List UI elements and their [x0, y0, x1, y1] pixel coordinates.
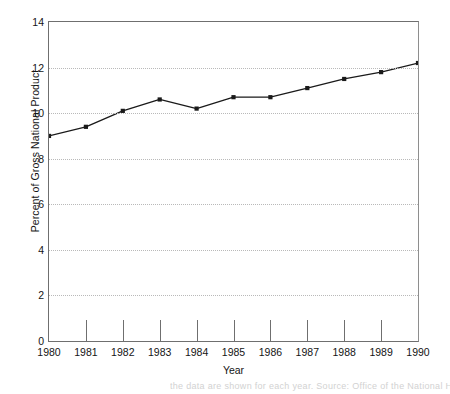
data-point-marker — [379, 70, 383, 74]
gridline — [49, 295, 418, 296]
gridline — [49, 68, 418, 69]
data-point-marker — [84, 125, 88, 129]
gridline — [49, 159, 418, 160]
series-line-path — [49, 63, 418, 136]
x-tick-mark — [307, 320, 308, 342]
y-tick-label: 6 — [26, 199, 44, 209]
y-tick-label: 14 — [26, 17, 44, 27]
y-tick-label: 4 — [26, 245, 44, 255]
x-axis-title: Year — [48, 364, 419, 376]
data-point-marker — [49, 134, 51, 138]
x-tick-mark — [234, 320, 235, 342]
y-axis-tick-labels: 02468101214 — [22, 0, 44, 394]
x-tick-label: 1990 — [395, 346, 441, 358]
x-axis-tick-labels: 1980198119821983198419851986198719881989… — [0, 346, 446, 362]
gridline — [49, 113, 418, 114]
x-tick-mark — [197, 320, 198, 342]
x-tick-mark — [86, 320, 87, 342]
series-markers — [49, 61, 418, 138]
scan-artifact-text: the data are shown for each year. Source… — [170, 381, 450, 393]
y-tick-label: 8 — [26, 154, 44, 164]
data-point-marker — [305, 86, 309, 90]
x-tick-mark — [344, 320, 345, 342]
y-tick-label: 0 — [26, 336, 44, 346]
x-tick-mark — [270, 320, 271, 342]
y-tick-label: 10 — [26, 108, 44, 118]
y-tick-label: 2 — [26, 290, 44, 300]
plot-area — [48, 21, 419, 342]
gridline — [49, 204, 418, 205]
x-tick-mark — [160, 320, 161, 342]
x-tick-mark — [381, 320, 382, 342]
x-tick-mark — [123, 320, 124, 342]
data-point-marker — [342, 77, 346, 81]
data-point-marker — [416, 61, 418, 65]
data-point-marker — [195, 106, 199, 110]
gridline — [49, 250, 418, 251]
data-point-marker — [158, 97, 162, 101]
line-series — [49, 22, 418, 341]
y-tick-label: 12 — [26, 63, 44, 73]
data-point-marker — [268, 95, 272, 99]
data-point-marker — [231, 95, 235, 99]
x-axis-ticks — [48, 320, 419, 344]
